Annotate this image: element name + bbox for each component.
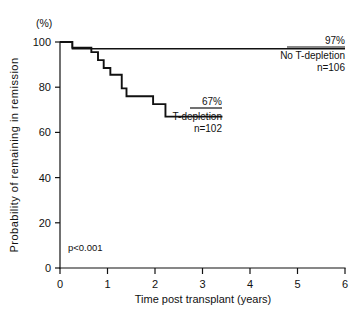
p-value-annotation: p<0.001: [68, 242, 103, 253]
x-tick-label: 5: [294, 278, 300, 290]
y-axis-ticks: 020406080100: [33, 36, 60, 274]
x-tick-label: 6: [342, 278, 348, 290]
label-67-percent: 67%: [202, 96, 222, 107]
y-tick-label: 40: [39, 172, 51, 184]
x-tick-label: 1: [104, 278, 110, 290]
x-axis-title: Time post transplant (years): [135, 293, 272, 305]
y-tick-label: 100: [33, 36, 51, 48]
y-tick-label: 60: [39, 126, 51, 138]
curve-t-depletion: [60, 42, 222, 117]
label-97-percent: 97%: [325, 35, 345, 46]
y-axis-unit-label: (%): [36, 17, 52, 29]
x-tick-label: 2: [152, 278, 158, 290]
curve-no-t-depletion: [60, 42, 345, 49]
y-tick-label: 0: [45, 262, 51, 274]
label-t-depletion-n: n=102: [194, 123, 223, 134]
figure-container: (%) 020406080100 0123456 97% No T-deplet…: [0, 0, 359, 315]
label-no-t-depletion-name: No T-depletion: [280, 50, 345, 61]
x-axis-ticks: 0123456: [57, 268, 348, 290]
y-tick-label: 20: [39, 217, 51, 229]
label-no-t-depletion-n: n=106: [317, 62, 346, 73]
survival-curve-chart: (%) 020406080100 0123456 97% No T-deplet…: [0, 0, 359, 315]
x-tick-label: 4: [247, 278, 253, 290]
x-tick-label: 3: [199, 278, 205, 290]
label-t-depletion-name: T-depletion: [173, 111, 222, 122]
y-axis-title: Probability of remaining in remission: [8, 57, 20, 252]
x-tick-label: 0: [57, 278, 63, 290]
y-tick-label: 80: [39, 81, 51, 93]
